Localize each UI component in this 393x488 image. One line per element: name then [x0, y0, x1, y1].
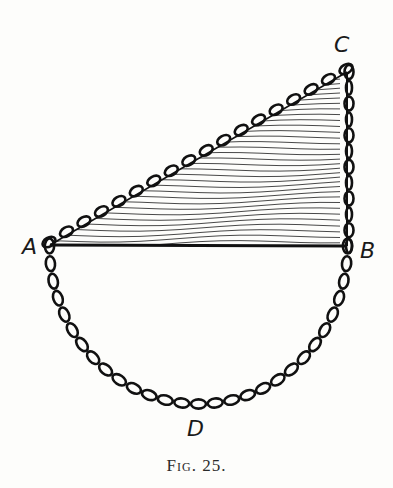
triangle-chain-diagram: [0, 0, 393, 488]
label-a: A: [22, 236, 37, 258]
label-b: B: [360, 240, 375, 262]
figure: C A B D Fig. 25.: [0, 0, 393, 488]
chain: [41, 62, 355, 409]
side-ab: [50, 245, 347, 246]
figure-caption: Fig. 25.: [0, 456, 393, 476]
label-d: D: [187, 418, 204, 440]
label-c: C: [334, 34, 349, 56]
